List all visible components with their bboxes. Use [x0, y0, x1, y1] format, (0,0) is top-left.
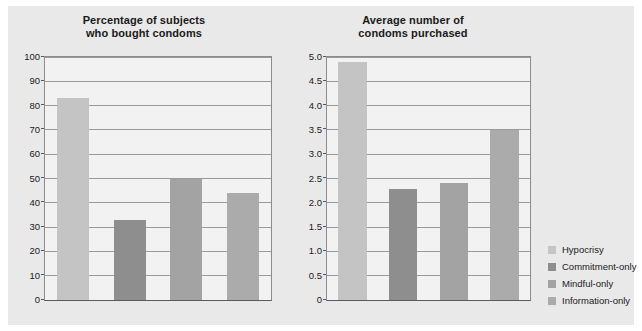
- chart-right-y-axis: 00.51.01.52.02.53.03.54.04.55.0: [288, 56, 322, 301]
- chart-right-title-line2: condoms purchased: [288, 27, 538, 40]
- legend-item-hypocrisy[interactable]: Hypocrisy: [548, 242, 640, 257]
- chart-left-tick-label: 80: [29, 99, 40, 110]
- legend-swatch-icon: [548, 297, 556, 305]
- bar-commitment-only: [114, 220, 146, 300]
- chart-left-plot-area: [44, 56, 272, 301]
- legend-swatch-icon: [548, 246, 556, 254]
- chart-left-tick-label: 60: [29, 148, 40, 159]
- chart-left-y-axis: 0102030405060708090100: [8, 56, 40, 301]
- chart-right-tick-label: 0.5: [309, 269, 322, 280]
- chart-left-tick-label: 100: [24, 51, 40, 62]
- gridline: [45, 57, 271, 58]
- bar-commitment-only: [389, 189, 417, 300]
- chart-right-tick-label: 3.0: [309, 148, 322, 159]
- legend-swatch-icon: [548, 280, 556, 288]
- bar-hypocrisy: [57, 98, 89, 300]
- chart-left-title-line1: Percentage of subjects: [8, 14, 280, 27]
- legend-item-label: Commitment-only: [562, 261, 636, 272]
- legend-item-mindful-only[interactable]: Mindful-only: [548, 276, 640, 291]
- bar-mindful-only: [170, 179, 202, 301]
- chart-left-tick-label: 30: [29, 221, 40, 232]
- chart-right-plot-area: [326, 56, 531, 301]
- chart-average-condoms-purchased: Average number of condoms purchased 00.5…: [288, 0, 538, 331]
- chart-left-tick-label: 20: [29, 245, 40, 256]
- chart-right-tick-label: 1.0: [309, 245, 322, 256]
- chart-left-title-line2: who bought condoms: [8, 27, 280, 40]
- chart-percentage-bought-condoms: Percentage of subjects who bought condom…: [8, 0, 280, 331]
- gridline: [45, 81, 271, 82]
- figure-root: Percentage of subjects who bought condom…: [0, 0, 642, 331]
- chart-right-tick-label: 1.5: [309, 221, 322, 232]
- chart-left-tick-label: 50: [29, 172, 40, 183]
- chart-right-title: Average number of condoms purchased: [288, 14, 538, 40]
- legend-item-commitment-only[interactable]: Commitment-only: [548, 259, 640, 274]
- chart-left-tick-label: 40: [29, 196, 40, 207]
- chart-legend: HypocrisyCommitment-onlyMindful-onlyInfo…: [548, 242, 640, 310]
- chart-right-tick-label: 4.5: [309, 75, 322, 86]
- chart-right-tick-label: 2.5: [309, 172, 322, 183]
- legend-item-label: Hypocrisy: [562, 244, 604, 255]
- chart-left-tick-label: 70: [29, 123, 40, 134]
- chart-left-tick-label: 10: [29, 269, 40, 280]
- chart-right-tick-label: 3.5: [309, 123, 322, 134]
- chart-right-tick-label: 0: [317, 294, 322, 305]
- bar-information-only: [227, 193, 259, 300]
- chart-right-tick-label: 2.0: [309, 196, 322, 207]
- bar-mindful-only: [440, 183, 468, 300]
- gridline: [327, 57, 530, 58]
- chart-right-tick-label: 5.0: [309, 51, 322, 62]
- chart-right-title-line1: Average number of: [288, 14, 538, 27]
- bar-information-only: [490, 130, 518, 300]
- legend-item-information-only[interactable]: Information-only: [548, 293, 640, 308]
- legend-item-label: Information-only: [562, 295, 630, 306]
- chart-left-tick-label: 90: [29, 75, 40, 86]
- bar-hypocrisy: [338, 62, 366, 300]
- chart-left-tick-label: 0: [35, 294, 40, 305]
- chart-left-title: Percentage of subjects who bought condom…: [8, 14, 280, 40]
- legend-item-label: Mindful-only: [562, 278, 613, 289]
- chart-right-tick-label: 4.0: [309, 99, 322, 110]
- legend-swatch-icon: [548, 263, 556, 271]
